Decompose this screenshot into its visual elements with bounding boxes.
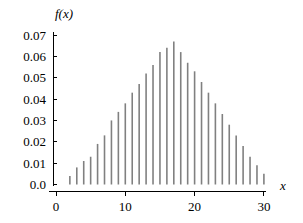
y-axis-title: f(x) xyxy=(55,6,73,21)
y-axis-tick-label: 0.01 xyxy=(23,156,46,171)
y-axis-tick-label: 0.03 xyxy=(23,113,46,128)
y-axis-tick-label: 0.07 xyxy=(23,28,46,43)
x-axis-tick-label: 10 xyxy=(119,199,132,214)
x-axis-tick-label: 30 xyxy=(257,199,270,214)
y-axis-tick-label: 0.04 xyxy=(23,92,46,107)
y-axis-tick-label: 0.0 xyxy=(30,177,46,192)
y-axis-tick-label: 0.05 xyxy=(23,70,46,85)
y-axis-tick-label: 0.02 xyxy=(23,134,46,149)
bar-series xyxy=(70,41,264,184)
plot-area: 0.00.010.020.030.040.050.060.07f(x)01020… xyxy=(0,0,303,223)
y-axis-tick-label: 0.06 xyxy=(23,49,46,64)
chart-figure: 0.00.010.020.030.040.050.060.07f(x)01020… xyxy=(0,0,303,223)
x-axis-tick-label: 0 xyxy=(53,199,60,214)
x-axis-title: x xyxy=(279,178,286,193)
x-axis-tick-label: 20 xyxy=(188,199,201,214)
